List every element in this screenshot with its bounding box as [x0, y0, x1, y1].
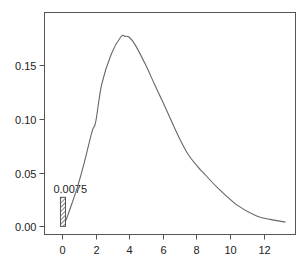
density-chart: 0.000.050.100.15 024681012 0.0075 — [0, 0, 308, 269]
x-axis: 024681012 — [59, 235, 270, 256]
lines-layer — [66, 35, 285, 222]
x-tick-label: 8 — [193, 244, 199, 256]
y-tick-label: 0.10 — [15, 114, 36, 126]
series-line — [66, 35, 285, 222]
x-tick-label: 12 — [258, 244, 270, 256]
y-tick-label: 0.05 — [15, 168, 36, 180]
bars-layer: 0.0075 — [53, 183, 87, 226]
y-tick-label: 0.00 — [15, 221, 36, 233]
y-axis: 0.000.050.100.15 — [15, 60, 44, 233]
x-tick-label: 0 — [59, 244, 65, 256]
y-tick-label: 0.15 — [15, 60, 36, 72]
x-tick-label: 4 — [126, 244, 132, 256]
plot-frame — [45, 13, 296, 235]
bar-data-label: 0.0075 — [53, 183, 87, 195]
bar — [60, 197, 65, 226]
x-tick-label: 2 — [93, 244, 99, 256]
x-tick-label: 10 — [224, 244, 236, 256]
x-tick-label: 6 — [160, 244, 166, 256]
